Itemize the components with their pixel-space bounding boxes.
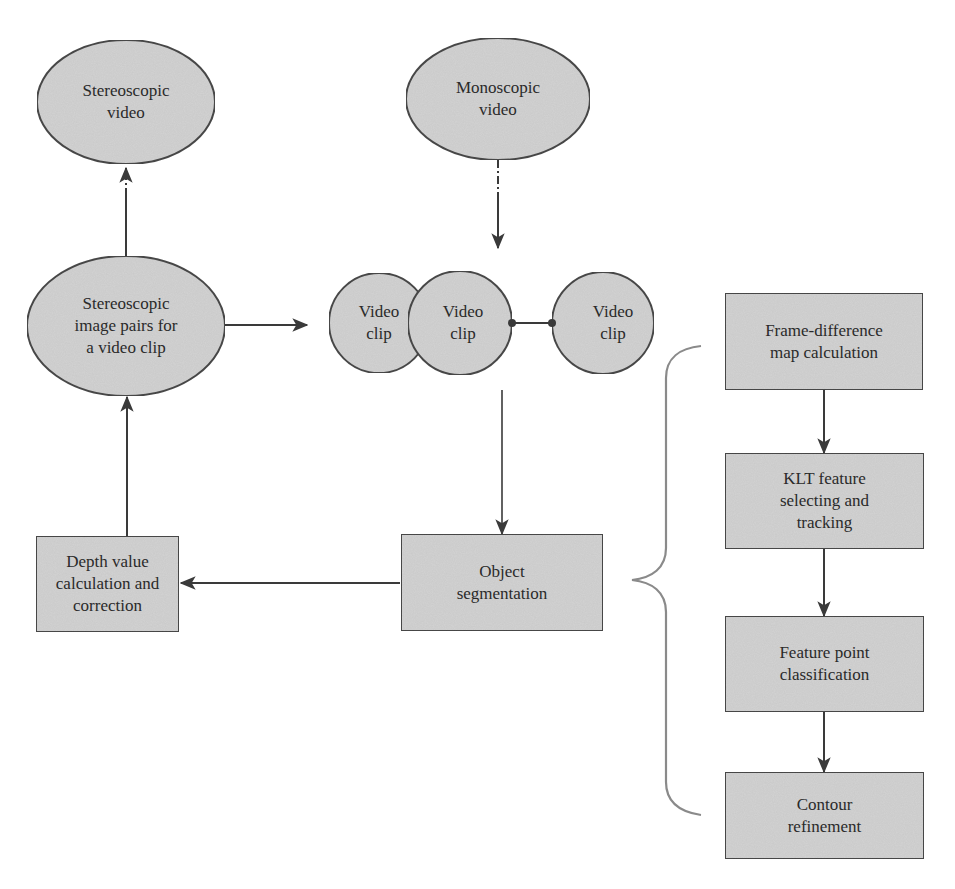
label-video-clip-3: Video clip [578,300,648,346]
label-stereo-image-pairs: Stereoscopic image pairs for a video cli… [27,286,225,366]
connector-dot-left [508,319,516,327]
label-monoscopic-video: Monoscopic video [406,59,590,139]
label-video-clip-1: Video clip [344,300,414,346]
label-contour-refinement: Contour refinement [725,772,924,859]
connector-dot-right [548,319,556,327]
label-object-segmentation: Object segmentation [401,534,603,631]
label-video-clip-2: Video clip [428,300,498,346]
label-stereoscopic-video: Stereoscopic video [37,62,215,142]
label-frame-difference: Frame-difference map calculation [725,293,923,390]
label-klt-feature: KLT feature selecting and tracking [725,453,924,549]
clip-connector [508,319,556,327]
label-feature-point: Feature point classification [725,616,924,712]
group-brace [632,346,701,815]
label-depth-value: Depth value calculation and correction [36,536,179,632]
